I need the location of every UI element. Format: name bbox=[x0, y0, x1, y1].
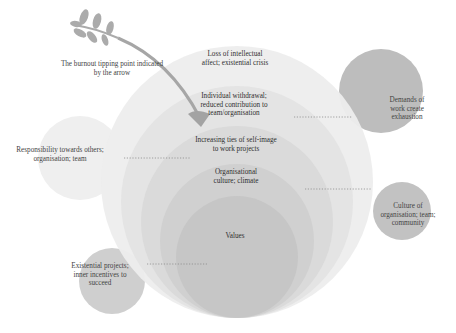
arrow-label: The burnout tipping point indicated by t… bbox=[60, 60, 164, 77]
satellite-culture-label: Culture of organisation; team; community bbox=[380, 202, 436, 228]
layer-3-label: Increasing ties of self-image to work pr… bbox=[194, 136, 278, 153]
satellite-existential-label: Existential projects; inner incentives t… bbox=[70, 262, 130, 288]
layer-4-label: Organisational culture; climate bbox=[205, 168, 267, 185]
layer-5-label: Values bbox=[215, 232, 255, 241]
leaf-sprig-icon bbox=[70, 8, 118, 47]
satellite-demands-label: Demands of work create exhaustion bbox=[383, 96, 431, 122]
ring-5-circle bbox=[176, 196, 298, 318]
layer-1-label: Loss of intellectual affect; existential… bbox=[200, 50, 270, 67]
layer-2-label: Individual withdrawal; reduced contribut… bbox=[192, 92, 276, 118]
satellite-responsibility-label: Responsibility towards others; organisat… bbox=[16, 146, 104, 163]
